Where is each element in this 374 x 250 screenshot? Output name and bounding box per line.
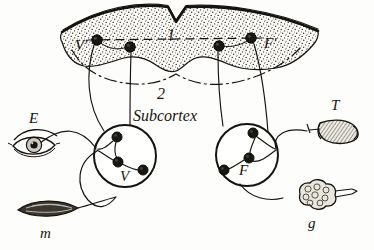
cortex-band: [61, 4, 319, 71]
nerve-organT-to-right-nucleus: [275, 130, 307, 149]
cortical-node: [92, 35, 102, 45]
left-nucleus-cell: [113, 157, 123, 167]
eye-organ: E: [8, 110, 60, 157]
gland-duct-upper: [335, 189, 352, 191]
subcortex-layer-number-label: 2: [157, 85, 165, 102]
fiber-cn3-to-right-nucleus: [218, 52, 223, 126]
left-nucleus-cell: [112, 132, 122, 142]
organ-t: T: [307, 97, 358, 143]
subcortical-motor-center-label: F: [238, 162, 249, 178]
gland-organ: g: [299, 180, 357, 231]
right-nucleus-cell: [248, 128, 258, 138]
cortical-node: [125, 42, 135, 52]
fiber-cn2-to-left-nucleus: [130, 53, 131, 126]
subcortex-name-label: Subcortex: [133, 107, 197, 124]
organ-t-nerve-hook: [307, 124, 310, 133]
eye-inner-canthus: [56, 143, 60, 144]
gland-duct-tip: [352, 189, 357, 194]
right-nucleus: F: [216, 124, 278, 186]
muscle-body: [18, 201, 78, 216]
cortical-visual-center-label: V': [75, 37, 88, 53]
organ-t-label: T: [331, 97, 341, 113]
cortex-layer-number-label: 1: [167, 26, 175, 43]
cortex-left-edge: [61, 32, 63, 42]
left-nucleus-cell: [138, 165, 148, 175]
muscle-organ: m: [18, 197, 116, 241]
eye-outer-canthus: [8, 143, 12, 145]
eye-label: E: [28, 110, 38, 126]
left-nucleus: V: [94, 125, 156, 187]
cortical-node: [214, 41, 224, 51]
figure-canvas: V F: [0, 0, 374, 250]
muscle-label: m: [40, 225, 51, 241]
right-nucleus-cell: [219, 165, 229, 175]
organ-t-body: [318, 120, 358, 143]
eye-highlight: [31, 142, 33, 144]
gland-duct-lower: [335, 194, 352, 197]
reflex-arc-figure: V F: [0, 0, 374, 250]
gland-label: g: [308, 215, 316, 231]
cortical-node: [246, 33, 256, 43]
cortical-motor-center-label: F': [263, 35, 277, 51]
